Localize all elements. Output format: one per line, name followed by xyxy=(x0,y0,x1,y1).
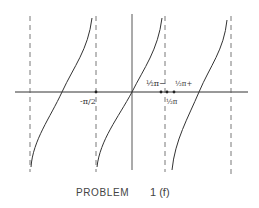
function-sketch: -π/2 ½π− ½π+ ½π PROBLEM 1 (f) xyxy=(0,0,259,208)
point-half-pi xyxy=(166,91,169,94)
curve-branches xyxy=(31,18,227,170)
label-half-pi-minus: ½π− xyxy=(146,79,166,88)
point-half-pi-minus xyxy=(160,91,163,94)
point-neg-half-pi xyxy=(95,91,98,94)
label-half-pi: ½π xyxy=(166,98,178,106)
curve-branch-3 xyxy=(172,20,227,170)
caption-problem-id: 1 (f) xyxy=(150,186,170,198)
point-half-pi-plus xyxy=(173,91,176,94)
caption-problem: PROBLEM xyxy=(76,187,129,198)
label-neg-half-pi: -π/2 xyxy=(80,97,96,106)
label-half-pi-plus: ½π+ xyxy=(175,80,192,88)
